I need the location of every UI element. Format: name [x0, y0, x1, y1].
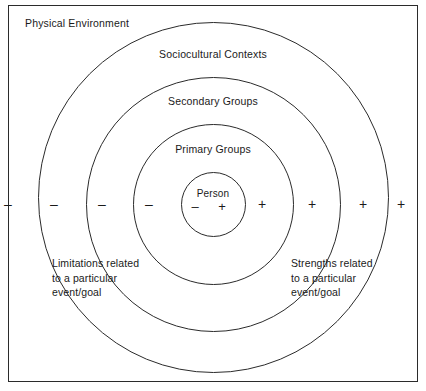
minus-sign-4: –	[141, 197, 157, 211]
label-secondary-groups: Secondary Groups	[168, 95, 258, 107]
physical-environment-label: Physical Environment	[25, 17, 129, 29]
person-plus-sign: +	[214, 200, 230, 214]
minus-sign-3: –	[94, 197, 110, 211]
plus-sign-3: +	[355, 197, 371, 211]
plus-sign-4: +	[393, 197, 409, 211]
label-sociocultural-contexts: Sociocultural Contexts	[159, 48, 267, 60]
minus-sign-1: –	[0, 197, 16, 211]
plus-sign-1: +	[254, 197, 270, 211]
person-minus-sign: –	[187, 200, 203, 214]
ecological-systems-diagram: Physical Environment Sociocultural Conte…	[0, 0, 426, 391]
limitations-annotation: Limitations related to a particular even…	[52, 256, 139, 300]
plus-sign-2: +	[304, 197, 320, 211]
label-person: Person	[197, 188, 230, 199]
label-primary-groups: Primary Groups	[175, 143, 251, 155]
minus-sign-2: –	[46, 197, 62, 211]
strengths-annotation: Strengths related to a particular event/…	[291, 256, 373, 300]
